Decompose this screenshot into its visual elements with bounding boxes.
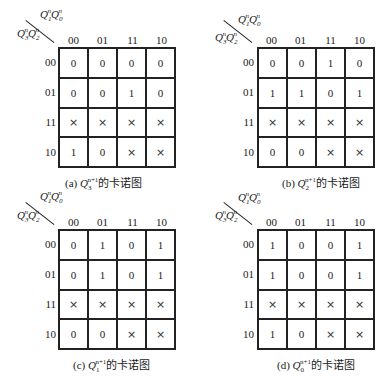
kmap-cell: 1 [146, 230, 175, 260]
kmap-cell: 0 [146, 48, 175, 78]
row-header: 10 [36, 146, 56, 158]
kmap-cell-dont-care: × [117, 137, 146, 167]
kmap-cell-dont-care: × [117, 108, 146, 138]
col-variable-label: Q1nQ0n [238, 12, 260, 28]
kmap-cell: 0 [287, 230, 316, 260]
row-variable-label: Q3nQ2n [17, 208, 39, 224]
row-header: 11 [36, 298, 56, 310]
row-header: 01 [36, 268, 56, 280]
col-header: 10 [345, 34, 374, 46]
col-header: 10 [345, 216, 374, 228]
row-variable-label: Q3nQ2n [215, 30, 237, 46]
kmap-cell: 0 [59, 260, 88, 290]
kmap-cell: 0 [88, 48, 117, 78]
kmap-cell: 0 [316, 260, 345, 290]
kmap-cell: 1 [88, 230, 117, 260]
col-header: 11 [316, 34, 345, 46]
row-header: 11 [234, 298, 254, 310]
kmap-cell-dont-care: × [146, 319, 175, 349]
kmap-cell-dont-care: × [258, 290, 287, 320]
kmap-cell: 1 [117, 78, 146, 108]
kmap-cell: 0 [88, 319, 117, 349]
col-header: 11 [118, 216, 147, 228]
row-header: 10 [234, 146, 254, 158]
kmap-cell: 0 [146, 78, 175, 108]
kmap-cell-dont-care: × [316, 108, 345, 138]
col-variable-label: Q1nQ0n [238, 190, 260, 206]
kmap-cell: 0 [258, 137, 287, 167]
row-header: 01 [36, 86, 56, 98]
kmap-cell: 1 [59, 137, 88, 167]
kmap-cell: 1 [88, 260, 117, 290]
kmap-cell: 1 [345, 78, 374, 108]
kmap-cell: 0 [59, 230, 88, 260]
kmap-cell: 1 [258, 260, 287, 290]
row-header: 10 [234, 328, 254, 340]
kmap-cell: 0 [88, 78, 117, 108]
col-header: 00 [257, 34, 286, 46]
kmap-caption: (c) Q1n+1的卡诺图 [73, 356, 150, 374]
col-header: 00 [59, 34, 88, 46]
kmap-grid: 0 0 0 0 0 0 1 0 × × × × 1 0 × × [58, 47, 176, 168]
kmap-cell: 0 [287, 137, 316, 167]
kmap-cell: 0 [287, 48, 316, 78]
col-header: 11 [118, 34, 147, 46]
kmap-cell: 0 [316, 78, 345, 108]
kmap-cell-dont-care: × [59, 108, 88, 138]
kmap-cell: 0 [59, 319, 88, 349]
kmap-grid: 1 0 0 1 1 0 0 1 × × × × 1 0 × × [257, 229, 375, 350]
row-header: 11 [234, 116, 254, 128]
kmap-cell-dont-care: × [117, 290, 146, 320]
kmap-cell: 1 [287, 78, 316, 108]
kmap-cell: 1 [345, 230, 374, 260]
col-header: 10 [147, 34, 176, 46]
kmap-cell: 0 [345, 48, 374, 78]
row-header: 00 [234, 56, 254, 68]
kmap-cell-dont-care: × [146, 137, 175, 167]
kmap-cell-dont-care: × [345, 319, 374, 349]
kmap-cell: 0 [117, 230, 146, 260]
col-header: 11 [316, 216, 345, 228]
row-header: 00 [234, 238, 254, 250]
row-header: 00 [36, 56, 56, 68]
kmap-cell-dont-care: × [88, 290, 117, 320]
kmap-cell-dont-care: × [345, 108, 374, 138]
kmap-cell-dont-care: × [88, 108, 117, 138]
kmap-cell-dont-care: × [287, 108, 316, 138]
kmap-cell-dont-care: × [146, 108, 175, 138]
col-header: 10 [147, 216, 176, 228]
kmap-cell: 1 [146, 260, 175, 290]
kmap-c: Q1nQ0n Q3nQ2n 00 01 11 10 00 01 11 10 0 … [0, 182, 194, 364]
kmap-cell: 1 [258, 230, 287, 260]
col-header: 01 [286, 34, 315, 46]
col-header: 01 [88, 34, 117, 46]
kmap-cell: 0 [316, 230, 345, 260]
row-header: 10 [36, 328, 56, 340]
kmap-cell: 0 [287, 260, 316, 290]
kmap-grid: 0 1 0 1 0 1 0 1 × × × × 0 0 × × [58, 229, 176, 350]
kmap-cell-dont-care: × [117, 319, 146, 349]
kmap-cell: 0 [88, 137, 117, 167]
row-variable-label: Q3nQ2n [215, 208, 237, 224]
kmap-cell: 0 [117, 260, 146, 290]
kmap-caption: (d) Q0n+1的卡诺图 [277, 356, 355, 374]
row-header: 01 [234, 268, 254, 280]
kmap-cell-dont-care: × [59, 290, 88, 320]
kmap-a: Q1nQ0n Q3nQ2n 00 01 11 10 00 01 11 10 0 … [0, 0, 194, 182]
col-header: 00 [257, 216, 286, 228]
row-header: 00 [36, 238, 56, 250]
row-variable-label: Q3nQ2n [17, 26, 39, 42]
kmap-cell: 1 [258, 319, 287, 349]
kmap-grid: 0 0 1 0 1 1 0 1 × × × × 0 0 × × [257, 47, 375, 168]
col-header: 01 [286, 216, 315, 228]
kmap-cell-dont-care: × [345, 290, 374, 320]
kmap-d: Q1nQ0n Q3nQ2n 00 01 11 10 00 01 11 10 1 … [198, 182, 388, 364]
kmap-cell: 0 [59, 48, 88, 78]
kmap-cell-dont-care: × [146, 290, 175, 320]
kmap-cell: 1 [345, 260, 374, 290]
kmap-cell-dont-care: × [316, 137, 345, 167]
kmap-cell-dont-care: × [345, 137, 374, 167]
kmap-cell-dont-care: × [258, 108, 287, 138]
kmap-b: Q1nQ0n Q3nQ2n 00 01 11 10 00 01 11 10 0 … [198, 0, 388, 182]
col-variable-label: Q1nQ0n [40, 189, 62, 205]
